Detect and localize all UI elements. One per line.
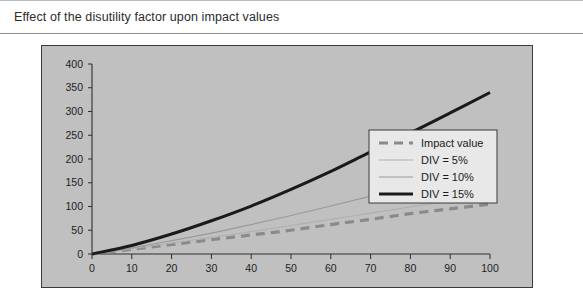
x-tick-label: 90	[444, 262, 456, 274]
figure-container: Effect of the disutility factor upon imp…	[0, 0, 583, 305]
legend-item-label: Impact value	[421, 137, 483, 149]
y-tick-label: 400	[65, 58, 83, 70]
figure-caption-text: Effect of the disutility factor upon imp…	[0, 10, 279, 24]
y-axis-tick-marks	[88, 64, 92, 254]
legend-item-label: DIV = 15%	[421, 188, 474, 200]
y-tick-label: 50	[71, 224, 83, 236]
x-tick-label: 0	[89, 262, 95, 274]
chart-legend: Impact valueDIV = 5%DIV = 10%DIV = 15%	[369, 130, 497, 203]
x-tick-label: 70	[365, 262, 377, 274]
x-axis-tick-labels: 0102030405060708090100	[89, 262, 499, 274]
y-tick-label: 200	[65, 153, 83, 165]
y-tick-label: 300	[65, 105, 83, 117]
line-chart: 050100150200250300350400 010203040506070…	[42, 46, 532, 287]
series-line	[92, 195, 490, 254]
y-tick-label: 250	[65, 129, 83, 141]
y-tick-label: 0	[77, 248, 83, 260]
y-tick-label: 350	[65, 81, 83, 93]
y-tick-label: 150	[65, 176, 83, 188]
y-axis-tick-labels: 050100150200250300350400	[65, 58, 83, 260]
x-tick-label: 100	[481, 262, 499, 274]
legend-item-label: DIV = 10%	[421, 171, 474, 183]
x-axis-tick-marks	[92, 254, 490, 259]
x-tick-label: 50	[285, 262, 297, 274]
y-tick-label: 100	[65, 200, 83, 212]
x-tick-label: 60	[325, 262, 337, 274]
x-tick-label: 10	[126, 262, 138, 274]
chart-plot-panel: 050100150200250300350400 010203040506070…	[41, 45, 533, 288]
x-tick-label: 40	[245, 262, 257, 274]
legend-item-label: DIV = 5%	[421, 154, 468, 166]
x-tick-label: 80	[405, 262, 417, 274]
x-tick-label: 20	[166, 262, 178, 274]
x-tick-label: 30	[206, 262, 218, 274]
figure-caption-bar: Effect of the disutility factor upon imp…	[0, 0, 583, 34]
